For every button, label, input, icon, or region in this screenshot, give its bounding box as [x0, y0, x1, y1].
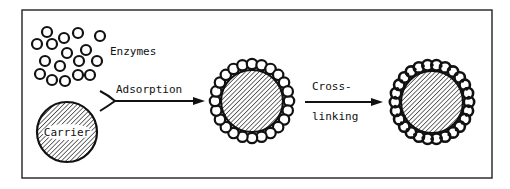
crosslink-bond	[400, 121, 404, 125]
crosslink-bond	[447, 133, 451, 137]
immobilization-diagram: Enzymes Carrier Adsorption Cross- linkin…	[0, 0, 510, 189]
enzyme-molecule	[47, 75, 57, 85]
enzyme-molecule	[81, 45, 91, 55]
free-enzymes	[32, 27, 105, 86]
enzyme-molecule	[73, 28, 83, 38]
crosslink-bond	[430, 63, 434, 67]
enzyme-molecule	[60, 76, 70, 86]
adsorbed-enzyme-particle	[210, 59, 294, 143]
enzyme-molecule	[92, 56, 102, 66]
crosslink-bond	[413, 133, 417, 137]
enzyme-molecule	[59, 33, 69, 43]
crosslink-bond	[455, 128, 459, 132]
crosslink-bond	[406, 128, 410, 132]
adsorption-label: Adsorption	[116, 83, 182, 96]
crosslink-bond	[400, 79, 404, 83]
crosslink-bond	[406, 73, 410, 77]
crosslink-bond	[467, 105, 471, 109]
enzyme-molecule	[32, 39, 42, 49]
enzyme-molecule	[42, 27, 52, 37]
crosslink-bond	[396, 87, 400, 91]
enzyme-molecule	[35, 69, 45, 79]
crosslink-bond	[430, 137, 434, 141]
carrier-label: Carrier	[44, 126, 91, 139]
crosslinking-label-line2: linking	[312, 110, 358, 123]
crosslink-bond	[465, 113, 469, 117]
crosslink-bond	[396, 113, 400, 117]
crosslink-bond	[421, 64, 425, 68]
enzyme-molecule	[47, 39, 57, 49]
enzyme-molecule	[85, 70, 95, 80]
enzyme-molecule	[95, 31, 105, 41]
crosslink-bond	[421, 136, 425, 140]
crosslink-bond	[447, 67, 451, 71]
crosslink-bond	[455, 73, 459, 77]
bound-enzyme	[283, 86, 293, 96]
enzyme-molecule	[74, 56, 84, 66]
crosslink-bond	[393, 96, 397, 100]
crosslinking-label-line1: Cross-	[312, 80, 352, 93]
enzymes-label: Enzymes	[110, 45, 156, 58]
enzyme-molecule	[55, 61, 65, 71]
crosslink-bond	[461, 121, 465, 125]
carrier-core	[401, 71, 463, 133]
crosslink-bond	[413, 67, 417, 71]
crosslinked-enzyme-particle	[390, 60, 474, 144]
crosslink-bond	[461, 79, 465, 83]
carrier-core	[221, 70, 283, 132]
crosslink-bond	[393, 105, 397, 109]
crosslink-bond	[465, 87, 469, 91]
enzyme-molecule	[40, 56, 50, 66]
crosslink-bond	[467, 96, 471, 100]
crosslink-bond	[439, 64, 443, 68]
enzyme-molecule	[62, 48, 72, 58]
crosslink-bond	[439, 136, 443, 140]
carrier-particle: Carrier	[37, 102, 97, 162]
enzyme-molecule	[73, 70, 83, 80]
